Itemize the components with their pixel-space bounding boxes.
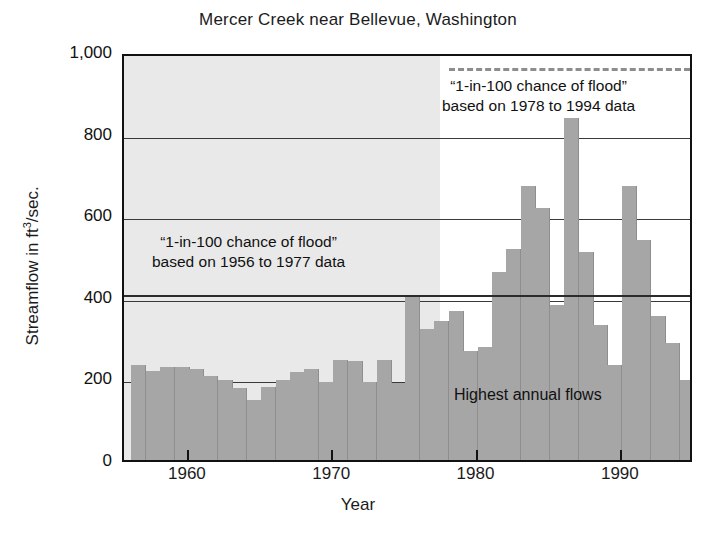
annotation-old-line2: based on 1956 to 1977 data [152,252,345,272]
x-tick-label-1970: 1970 [312,464,350,484]
bar-1960 [189,369,204,460]
bar-1956 [131,365,146,460]
bar-1969 [319,382,334,460]
bar-1992 [651,316,666,460]
flood-line-1956-1977 [124,295,690,297]
bar-1979 [463,351,478,460]
bar-1962 [218,380,233,460]
bar-1966 [276,380,291,460]
annotation-old-period: “1-in-100 chance of flood” based on 1956… [152,232,345,273]
bar-1990 [622,186,637,460]
x-tick-label-1960: 1960 [168,464,206,484]
bar-1965 [261,387,276,460]
x-tick-mark-1960 [187,450,189,462]
bar-1970 [333,360,348,460]
bar-1961 [203,376,218,460]
bar-1987 [579,252,594,460]
bar-1964 [247,400,262,460]
bar-1967 [290,372,305,460]
bar-1974 [391,383,406,460]
plot-area: “1-in-100 chance of flood” based on 1956… [122,54,692,462]
y-tick-label-600: 600 [0,206,112,226]
bar-1977 [434,321,449,460]
x-tick-mark-1970 [331,450,333,462]
x-tick-label-1990: 1990 [601,464,639,484]
bar-1994 [680,380,692,460]
bar-1973 [377,360,392,460]
bar-1986 [564,118,579,460]
y-tick-label-1000: 1,000 [0,43,112,63]
bar-1984 [535,208,550,460]
bar-1963 [232,388,247,460]
bar-1985 [550,305,565,460]
annotation-new-line2: based on 1978 to 1994 data [442,96,635,116]
bar-1991 [636,240,651,460]
y-tick-label-0: 0 [0,451,112,471]
x-tick-mark-1990 [620,450,622,462]
x-tick-mark-1980 [476,450,478,462]
x-axis-title: Year [0,495,716,515]
bar-1975 [405,297,420,460]
figure-root: Mercer Creek near Bellevue, Washington S… [0,0,716,550]
annotation-new-period: “1-in-100 chance of flood” based on 1978… [442,76,635,117]
bar-1968 [304,369,319,460]
bar-1971 [348,361,363,460]
flood-line-1978-1994 [449,68,690,71]
y-tick-label-200: 200 [0,369,112,389]
bar-1958 [160,367,175,460]
y-tick-label-400: 400 [0,288,112,308]
annotation-old-line1: “1-in-100 chance of flood” [152,232,345,252]
bar-1982 [506,249,521,460]
bar-1983 [521,186,536,460]
bar-1972 [362,382,377,460]
y-tick-label-800: 800 [0,125,112,145]
bar-1976 [420,329,435,460]
annotation-new-line1: “1-in-100 chance of flood” [442,76,635,96]
bar-1981 [492,272,507,460]
bar-1989 [607,365,622,460]
x-tick-label-1980: 1980 [457,464,495,484]
bar-1959 [175,367,190,460]
series-label-highest-annual-flows: Highest annual flows [454,386,602,404]
bar-1993 [665,343,680,461]
bar-1957 [146,371,161,460]
